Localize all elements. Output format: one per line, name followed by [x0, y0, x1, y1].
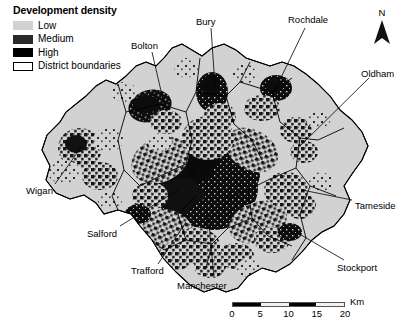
scale-bar-unit: Km [350, 296, 364, 307]
map-label-rochdale: Rochdale [288, 14, 328, 25]
north-arrow-label: N [370, 8, 394, 18]
scale-segment-10-15 [289, 303, 317, 306]
north-arrow-icon [373, 19, 391, 45]
medium-swatch [13, 35, 33, 44]
scale-segment-5-10 [261, 303, 289, 306]
legend-label-high: High [38, 47, 59, 59]
map-label-bury: Bury [196, 16, 216, 27]
legend-label-district-boundaries: District boundaries [38, 60, 121, 72]
scale-tick-5: 5 [258, 308, 263, 319]
legend-item-medium: Medium [13, 33, 153, 46]
low-swatch [13, 21, 33, 30]
scale-segment-0-5 [233, 303, 261, 306]
scale-tick-20: 20 [340, 308, 351, 319]
legend-item-low: Low [13, 19, 153, 32]
scale-segment-15-20 [316, 303, 344, 306]
map-label-salford: Salford [87, 228, 117, 239]
legend-label-medium: Medium [38, 33, 74, 45]
development-density-map-figure: Bolton Bury Rochdale Oldham Tameside Sto… [0, 0, 408, 328]
map-legend: Development density Low Medium High Dist… [13, 4, 153, 73]
map-label-tameside: Tameside [355, 200, 396, 211]
scale-bar: 0 5 10 15 20 Km [232, 302, 382, 319]
map-label-oldham: Oldham [361, 68, 394, 79]
boundary-swatch [13, 62, 33, 71]
high-swatch [13, 48, 33, 57]
scale-tick-10: 10 [283, 308, 294, 319]
legend-item-high: High [13, 46, 153, 59]
legend-label-low: Low [38, 20, 56, 32]
scale-bar-ticks: 0 5 10 15 20 [232, 307, 345, 319]
legend-title: Development density [13, 4, 153, 17]
map-label-trafford: Trafford [131, 265, 164, 276]
north-arrow: N [370, 8, 394, 49]
scale-tick-15: 15 [311, 308, 322, 319]
map-label-stockport: Stockport [337, 262, 377, 273]
scale-tick-0: 0 [229, 308, 234, 319]
map-label-wigan: Wigan [26, 185, 53, 196]
map-label-manchester: Manchester [177, 280, 227, 291]
legend-item-district-boundaries: District boundaries [13, 60, 153, 73]
